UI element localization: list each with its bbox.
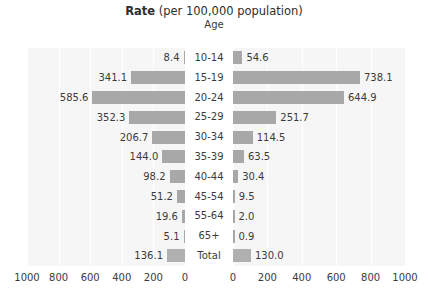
bar-right <box>233 71 360 84</box>
chart-row: 206.730-34114.5 <box>0 127 428 147</box>
age-group-label: 55-64 <box>185 206 233 226</box>
title-rest: (per 100,000 population) <box>155 4 303 18</box>
bar-value-left: 144.0 <box>126 151 163 162</box>
bar-left <box>152 131 185 144</box>
bar-value-left: 341.1 <box>94 72 131 83</box>
bar-group-left: 19.6 <box>27 206 185 226</box>
bar-group-right: 644.9 <box>233 88 405 108</box>
chart-row: 585.620-24644.9 <box>0 88 428 108</box>
bar-group-right: 738.1 <box>233 68 405 88</box>
bar-value-left: 5.1 <box>160 231 184 242</box>
age-group-label: 40-44 <box>185 167 233 187</box>
bar-value-left: 136.1 <box>130 250 167 261</box>
bar-value-right: 63.5 <box>244 151 274 162</box>
age-group-label: 35-39 <box>185 147 233 167</box>
bar-group-left: 206.7 <box>27 127 185 147</box>
bar-value-right: 130.0 <box>251 250 288 261</box>
bar-left <box>167 249 185 262</box>
bar-value-right: 738.1 <box>360 72 397 83</box>
bar-group-right: 54.6 <box>233 48 405 68</box>
x-tick-left: 200 <box>144 272 163 283</box>
chart-rows: 8.410-1454.6341.115-19738.1585.620-24644… <box>0 48 428 266</box>
bar-group-left: 352.3 <box>27 107 185 127</box>
bar-value-left: 585.6 <box>56 92 93 103</box>
chart-row: 19.655-642.0 <box>0 206 428 226</box>
age-group-label: 30-34 <box>185 127 233 147</box>
bar-left <box>92 91 185 104</box>
bar-left <box>131 71 185 84</box>
chart-row: 51.245-549.5 <box>0 187 428 207</box>
age-group-label: 15-19 <box>185 68 233 88</box>
x-tick-right: 200 <box>258 272 277 283</box>
bar-value-right: 114.5 <box>253 132 290 143</box>
x-tick-left: 400 <box>112 272 131 283</box>
chart-row: 341.115-19738.1 <box>0 68 428 88</box>
bar-group-right: 251.7 <box>233 107 405 127</box>
bar-right <box>233 91 344 104</box>
bar-value-right: 251.7 <box>276 112 313 123</box>
bar-value-right: 644.9 <box>344 92 381 103</box>
bar-value-left: 19.6 <box>152 211 182 222</box>
age-group-label: 45-54 <box>185 187 233 207</box>
population-pyramid-chart: Rate (per 100,000 population) Age 8.410-… <box>0 0 428 307</box>
bar-left <box>177 190 185 203</box>
chart-row: 5.165+0.9 <box>0 226 428 246</box>
chart-row: 136.1Total130.0 <box>0 246 428 266</box>
bar-value-left: 8.4 <box>160 52 184 63</box>
x-tick-left: 600 <box>81 272 100 283</box>
x-axis-right: 02004006008001000 <box>233 272 405 290</box>
x-tick-left: 0 <box>182 272 188 283</box>
bar-value-left: 98.2 <box>139 171 169 182</box>
age-group-label: 65+ <box>185 226 233 246</box>
bar-group-left: 51.2 <box>27 187 185 207</box>
bar-value-right: 54.6 <box>242 52 272 63</box>
bar-group-left: 144.0 <box>27 147 185 167</box>
bar-value-left: 51.2 <box>147 191 177 202</box>
bar-value-left: 352.3 <box>93 112 130 123</box>
bar-value-right: 9.5 <box>235 191 259 202</box>
bar-group-left: 136.1 <box>27 246 185 266</box>
bar-left <box>129 111 185 124</box>
bar-value-right: 0.9 <box>235 231 259 242</box>
bar-group-left: 341.1 <box>27 68 185 88</box>
x-axis-left: 10008006004002000 <box>27 272 185 290</box>
chart-row: 144.035-3963.5 <box>0 147 428 167</box>
age-group-label: 10-14 <box>185 48 233 68</box>
age-axis-title: Age <box>0 20 428 31</box>
x-tick-left: 800 <box>49 272 68 283</box>
bar-group-right: 0.9 <box>233 226 405 246</box>
bar-group-right: 9.5 <box>233 187 405 207</box>
title-strong: Rate <box>125 4 155 18</box>
x-tick-right: 800 <box>361 272 380 283</box>
chart-row: 8.410-1454.6 <box>0 48 428 68</box>
bar-group-left: 5.1 <box>27 226 185 246</box>
bar-value-right: 2.0 <box>235 211 259 222</box>
bar-group-left: 98.2 <box>27 167 185 187</box>
bar-group-right: 30.4 <box>233 167 405 187</box>
x-tick-right: 400 <box>292 272 311 283</box>
bar-right <box>233 150 244 163</box>
bar-right <box>233 51 242 64</box>
bar-group-left: 585.6 <box>27 88 185 108</box>
bar-left <box>162 150 185 163</box>
x-tick-left: 1000 <box>14 272 39 283</box>
bar-group-right: 2.0 <box>233 206 405 226</box>
bar-group-right: 130.0 <box>233 246 405 266</box>
page-title: Rate (per 100,000 population) <box>0 5 428 17</box>
x-tick-right: 0 <box>230 272 236 283</box>
bar-right <box>233 131 253 144</box>
bar-right <box>233 249 251 262</box>
bar-group-right: 63.5 <box>233 147 405 167</box>
age-group-label: 20-24 <box>185 88 233 108</box>
chart-title-block: Rate (per 100,000 population) Age <box>0 5 428 31</box>
bar-group-right: 114.5 <box>233 127 405 147</box>
bar-right <box>233 111 276 124</box>
x-tick-right: 1000 <box>392 272 417 283</box>
age-group-label: 25-29 <box>185 107 233 127</box>
chart-row: 98.240-4430.4 <box>0 167 428 187</box>
bar-value-right: 30.4 <box>238 171 268 182</box>
x-tick-right: 600 <box>327 272 346 283</box>
bar-group-left: 8.4 <box>27 48 185 68</box>
chart-row: 352.325-29251.7 <box>0 107 428 127</box>
bar-value-left: 206.7 <box>116 132 153 143</box>
